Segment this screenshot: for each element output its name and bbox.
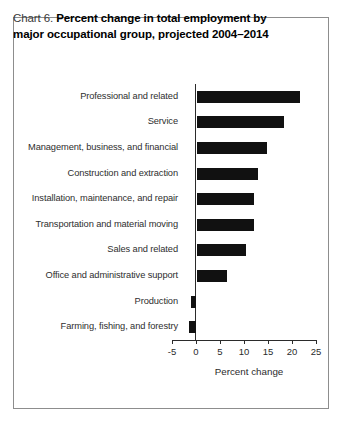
x-axis-tick-label: 0 <box>193 346 198 357</box>
category-axis-labels: Professional and relatedServiceManagemen… <box>18 84 178 340</box>
x-axis-tick-label: 20 <box>287 346 298 357</box>
category-label: Production <box>135 296 178 306</box>
chart-bar <box>197 116 284 128</box>
x-axis-tick-label: 10 <box>239 346 250 357</box>
chart-bar <box>189 321 196 333</box>
chart-bar <box>197 219 254 231</box>
category-label: Office and administrative support <box>46 270 178 280</box>
category-label: Farming, fishing, and forestry <box>61 321 178 331</box>
category-label: Management, business, and financial <box>28 142 178 152</box>
x-axis-tick-label: 15 <box>263 346 274 357</box>
chart-bar <box>197 270 227 282</box>
x-axis-tick <box>220 340 221 344</box>
x-axis-tick <box>316 340 317 344</box>
category-label: Service <box>148 116 178 126</box>
x-axis-tick <box>196 340 197 344</box>
x-axis-tick <box>268 340 269 344</box>
chart-bar <box>191 296 196 308</box>
category-label: Professional and related <box>80 91 178 101</box>
x-axis-tick-label: 5 <box>217 346 222 357</box>
category-label: Installation, maintenance, and repair <box>32 193 178 203</box>
chart-bar <box>197 142 267 154</box>
plot-area: -50510152025 <box>182 84 316 340</box>
x-axis-tick <box>292 340 293 344</box>
category-label: Sales and related <box>107 244 178 254</box>
category-label: Transportation and material moving <box>36 219 179 229</box>
x-axis-tick-label: -5 <box>168 346 176 357</box>
chart-title-line-1: Chart 6. Percent change in total employm… <box>13 11 299 27</box>
chart-title-text-line-1: Percent change in total employment by <box>56 12 266 24</box>
x-axis-tick-label: 25 <box>311 346 322 357</box>
category-label: Construction and extraction <box>68 168 178 178</box>
chart-title: Chart 6. Percent change in total employm… <box>13 11 299 42</box>
x-axis-tick <box>172 340 173 344</box>
chart-number-label: Chart 6. <box>13 12 53 24</box>
x-axis-title: Percent change <box>182 366 316 377</box>
chart-bar <box>197 168 258 180</box>
x-axis-tick <box>244 340 245 344</box>
chart-title-text-line-2: major occupational group, projected 2004… <box>13 27 299 43</box>
chart-bar <box>197 193 254 205</box>
chart-bar <box>197 244 246 256</box>
chart-bar <box>197 91 300 103</box>
